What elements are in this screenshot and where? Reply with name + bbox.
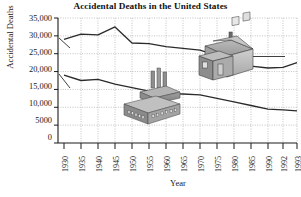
plot-area [0,0,301,197]
plot-background [58,18,297,143]
chart-figure: Accidental Deaths in the United States A… [0,0,301,197]
x-tick-marks [64,143,297,149]
y-tick-marks [54,18,58,143]
